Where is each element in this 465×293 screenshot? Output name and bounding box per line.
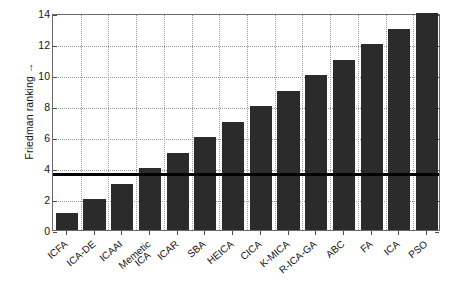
plot-area [52, 14, 440, 231]
x-tick-mark [260, 231, 261, 235]
critical-difference-line [53, 173, 439, 176]
y-tick-label: 12 [28, 39, 50, 51]
x-tick-mark [315, 231, 316, 235]
x-tick-mark [149, 231, 150, 235]
x-tick-mark [371, 231, 372, 235]
y-tick-label: 10 [28, 70, 50, 82]
x-tick-mark [398, 231, 399, 235]
y-tick-label: 0 [28, 225, 50, 237]
x-tick-mark [426, 231, 427, 235]
x-tick-mark [94, 231, 95, 235]
y-tick-label: 14 [28, 8, 50, 20]
x-tick-mark [177, 231, 178, 235]
y-tick-label: 6 [28, 132, 50, 144]
x-tick-label: PSO [375, 238, 430, 286]
y-tick-label: 4 [28, 163, 50, 175]
x-tick-mark [121, 231, 122, 235]
y-tick-label: 8 [28, 101, 50, 113]
annotation-layer [53, 15, 439, 230]
x-tick-mark [66, 231, 67, 235]
y-tick-label: 2 [28, 194, 50, 206]
x-tick-mark [204, 231, 205, 235]
y-axis-tick-labels: 02468101214 [26, 0, 50, 293]
x-tick-mark [288, 231, 289, 235]
x-axis-tick-labels: ICFAICA-DEICAAIMemeticICAICARSBAHEICACIC… [52, 231, 440, 293]
friedman-ranking-bar-chart: Friedman ranking → 02468101214 ICFAICA-D… [0, 0, 465, 293]
x-tick-mark [232, 231, 233, 235]
x-tick-mark [343, 231, 344, 235]
